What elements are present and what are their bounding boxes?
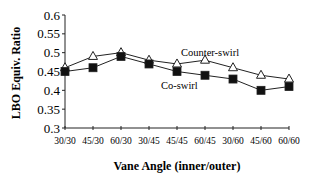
x-tick-label: 30/45: [138, 136, 160, 146]
x-tick-label: 30/30: [54, 136, 76, 146]
x-tick-label: 60/45: [194, 136, 216, 146]
x-axis: 30/3045/3060/3030/4545/4560/4530/6045/60…: [54, 126, 300, 146]
x-tick-label: 45/60: [250, 136, 272, 146]
x-tick-label: 45/30: [82, 136, 104, 146]
data-point-square: [173, 68, 181, 76]
data-point-square: [285, 83, 293, 91]
y-tick-label: 0.35: [37, 102, 60, 117]
data-point-square: [229, 75, 237, 83]
y-tick-label: 0.3: [44, 121, 60, 136]
line-chart: 0.60.550.50.450.40.350.3 30/3045/3060/30…: [0, 0, 319, 178]
data-point-square: [201, 71, 209, 79]
data-point-square: [145, 60, 153, 68]
data-point-square: [89, 64, 97, 72]
legend-label-co-swirl: Co-swirl: [161, 80, 198, 91]
legend-label-counter-swirl: Counter-swirl: [181, 47, 239, 58]
data-point-triangle: [173, 59, 182, 67]
x-tick-label: 45/45: [166, 136, 188, 146]
data-point-triangle: [285, 74, 294, 82]
data-point-square: [61, 68, 69, 76]
data-point-square: [117, 52, 125, 60]
x-tick-label: 60/60: [278, 136, 300, 146]
x-tick-label: 30/60: [222, 136, 244, 146]
data-point-square: [257, 86, 265, 94]
y-tick-label: 0.4: [44, 83, 61, 98]
y-tick-label: 0.45: [37, 64, 60, 79]
x-tick-label: 60/30: [110, 136, 132, 146]
y-axis-title: LBO Equiv. Ratio: [9, 27, 23, 119]
y-tick-label: 0.5: [44, 45, 60, 60]
y-tick-label: 0.55: [37, 26, 60, 41]
data-point-triangle: [89, 51, 98, 59]
y-tick-label: 0.6: [44, 8, 61, 23]
x-axis-title: Vane Angle (inner/outer): [114, 159, 241, 173]
